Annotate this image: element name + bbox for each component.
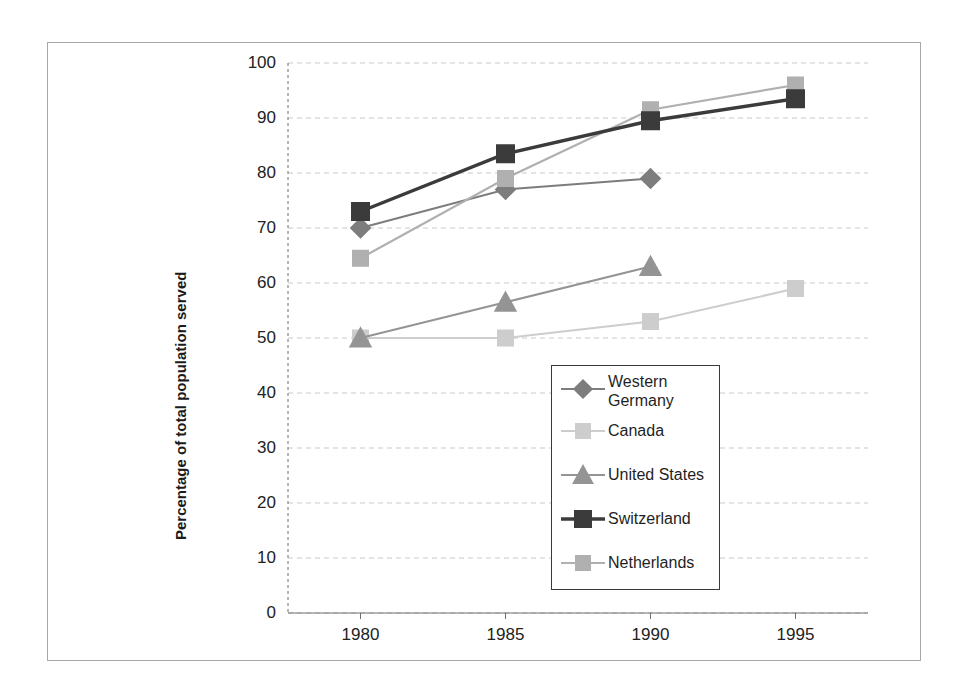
plot-canvas bbox=[0, 0, 966, 689]
series-line bbox=[361, 289, 796, 339]
x-tick-marks bbox=[361, 613, 796, 619]
x-tick-label-1995: 1995 bbox=[756, 626, 836, 643]
marker-square bbox=[787, 280, 804, 297]
legend[interactable]: Western GermanyCanadaUnited StatesSwitze… bbox=[551, 365, 720, 590]
legend-swatch-icon bbox=[560, 376, 606, 402]
marker-diamond bbox=[573, 379, 593, 399]
legend-swatch-icon bbox=[560, 506, 606, 532]
legend-swatch-icon bbox=[560, 550, 606, 576]
legend-label: Canada bbox=[608, 421, 664, 440]
series-switzerland bbox=[351, 89, 805, 221]
marker-square bbox=[786, 89, 805, 108]
legend-label: Western Germany bbox=[608, 372, 708, 410]
legend-swatch-icon bbox=[560, 462, 606, 488]
y-tick-label-70: 70 bbox=[220, 219, 276, 236]
x-tick-label-1980: 1980 bbox=[321, 626, 401, 643]
legend-item-switzerland[interactable]: Switzerland bbox=[552, 506, 721, 532]
series-layer bbox=[349, 77, 805, 348]
marker-triangle bbox=[639, 255, 662, 276]
legend-item-netherlands[interactable]: Netherlands bbox=[552, 550, 721, 576]
marker-square bbox=[352, 250, 369, 267]
y-tick-label-100: 100 bbox=[220, 54, 276, 71]
series-line bbox=[361, 99, 796, 212]
x-tick-label-1990: 1990 bbox=[611, 626, 691, 643]
marker-square bbox=[575, 555, 591, 571]
y-tick-label-40: 40 bbox=[220, 384, 276, 401]
legend-label: Netherlands bbox=[608, 553, 694, 572]
series-line bbox=[361, 85, 796, 258]
y-tick-label-60: 60 bbox=[220, 274, 276, 291]
legend-label: Switzerland bbox=[608, 509, 691, 528]
marker-square bbox=[642, 313, 659, 330]
legend-label: United States bbox=[608, 465, 704, 484]
y-tick-label-30: 30 bbox=[220, 439, 276, 456]
marker-square bbox=[574, 510, 592, 528]
series-canada bbox=[352, 280, 804, 347]
series-netherlands bbox=[352, 77, 804, 267]
chart-figure: Percentage of total population served 01… bbox=[0, 0, 966, 689]
marker-square bbox=[497, 170, 514, 187]
legend-item-western-germany[interactable]: Western Germany bbox=[552, 376, 721, 402]
marker-diamond bbox=[640, 168, 662, 190]
marker-square bbox=[497, 330, 514, 347]
legend-item-united-states[interactable]: United States bbox=[552, 462, 721, 488]
y-tick-label-10: 10 bbox=[220, 549, 276, 566]
y-tick-label-90: 90 bbox=[220, 109, 276, 126]
marker-square bbox=[351, 202, 370, 221]
y-tick-label-20: 20 bbox=[220, 494, 276, 511]
marker-square bbox=[496, 144, 515, 163]
legend-item-canada[interactable]: Canada bbox=[552, 418, 721, 444]
x-tick-label-1985: 1985 bbox=[466, 626, 546, 643]
legend-swatch-icon bbox=[560, 418, 606, 444]
y-tick-label-0: 0 bbox=[220, 604, 276, 621]
y-tick-label-50: 50 bbox=[220, 329, 276, 346]
marker-square bbox=[575, 423, 591, 439]
y-tick-label-80: 80 bbox=[220, 164, 276, 181]
marker-square bbox=[641, 111, 660, 130]
